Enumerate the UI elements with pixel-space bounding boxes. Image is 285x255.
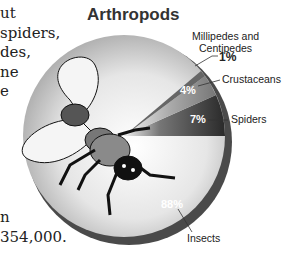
chart-title: Arthropods [87, 5, 180, 25]
pct-crustaceans: 4% [180, 84, 196, 96]
label-crustaceans: Crustaceans [222, 73, 281, 85]
label-insects: Insects [187, 232, 220, 244]
pct-spiders: 7% [190, 113, 206, 125]
pct-millipedes: 1% [219, 50, 236, 64]
pct-insects: 88% [161, 198, 183, 210]
label-spiders: Spiders [231, 113, 267, 125]
label-millipedes-line1: Millipedes and [192, 30, 259, 42]
